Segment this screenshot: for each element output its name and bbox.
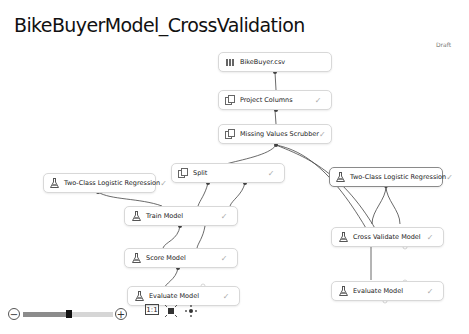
node-label: Project Columns (240, 96, 313, 104)
check-icon: ✓ (425, 233, 435, 242)
check-icon: ✓ (446, 173, 453, 182)
node-label: Score Model (146, 254, 219, 262)
check-icon: ✓ (266, 169, 276, 178)
node-train-model[interactable]: Train Model ✓ (124, 206, 238, 226)
fit-screen-icon (164, 304, 178, 318)
check-icon: ✓ (219, 212, 229, 221)
check-icon: ✓ (221, 292, 231, 301)
node-two-class-logistic-regression-right[interactable]: Two-Class Logistic Regression ✓ (329, 167, 443, 187)
module-icon (178, 168, 188, 178)
module-icon (225, 95, 235, 105)
check-icon: ✓ (425, 287, 435, 296)
check-icon: ✓ (319, 130, 326, 139)
node-label: Cross Validate Model (353, 233, 425, 241)
node-label: Split (193, 169, 266, 177)
node-label: BikeBuyer.csv (240, 58, 331, 66)
node-bikebuyer-csv[interactable]: BikeBuyer.csv (218, 52, 332, 72)
zoom-slider-fill (23, 312, 67, 317)
node-project-columns[interactable]: Project Columns ✓ (218, 90, 332, 110)
node-label: Evaluate Model (149, 292, 221, 300)
center-view-button[interactable] (184, 303, 198, 317)
node-label: Two-Class Logistic Regression (350, 173, 446, 181)
node-label: Evaluate Model (353, 287, 425, 295)
flask-icon (336, 172, 345, 182)
actual-size-button[interactable]: 1:1 (145, 304, 159, 315)
node-split[interactable]: Split ✓ (171, 163, 285, 183)
node-two-class-logistic-regression-left[interactable]: Two-Class Logistic Regression ✓ (43, 173, 156, 193)
fit-to-screen-button[interactable] (164, 303, 178, 317)
flask-icon (131, 211, 141, 221)
experiment-canvas[interactable]: BikeBuyer.csv Project Columns ✓ Missing … (0, 0, 469, 334)
flask-icon (50, 178, 59, 188)
node-score-model[interactable]: Score Model ✓ (124, 248, 238, 268)
center-icon (184, 304, 198, 318)
node-cross-validate-model[interactable]: Cross Validate Model ✓ (331, 227, 444, 247)
flask-icon (134, 291, 144, 301)
flask-icon (338, 232, 348, 242)
dataset-icon (225, 57, 235, 67)
module-icon (225, 129, 235, 139)
node-evaluate-model-right[interactable]: Evaluate Model ✓ (331, 281, 444, 301)
node-missing-values-scrubber[interactable]: Missing Values Scrubber ✓ (218, 124, 332, 144)
zoom-out-button[interactable]: − (8, 308, 20, 320)
flask-icon (338, 286, 348, 296)
node-label: Two-Class Logistic Regression (64, 179, 160, 187)
zoom-slider-thumb[interactable] (66, 310, 72, 318)
flask-icon (131, 253, 141, 263)
node-label: Train Model (146, 212, 219, 220)
zoom-in-button[interactable]: + (115, 308, 127, 320)
check-icon: ✓ (160, 179, 167, 188)
check-icon: ✓ (313, 96, 323, 105)
node-label: Missing Values Scrubber (240, 130, 319, 138)
check-icon: ✓ (219, 254, 229, 263)
